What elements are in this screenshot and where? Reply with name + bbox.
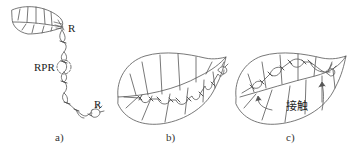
caption-c: c) — [286, 132, 295, 143]
panel-a-drawing — [12, 7, 104, 118]
figure-canvas — [0, 0, 359, 151]
ant-chain-c — [242, 59, 330, 93]
panel-b-drawing — [118, 53, 228, 124]
label-r-top: R — [68, 23, 75, 34]
caption-b: b) — [166, 132, 175, 143]
caption-a: a) — [55, 132, 64, 143]
panel-c-drawing — [236, 53, 346, 124]
label-rpr: RPR — [34, 62, 55, 73]
label-r-bottom: R — [94, 99, 101, 110]
label-contact: 接触 — [286, 101, 308, 112]
